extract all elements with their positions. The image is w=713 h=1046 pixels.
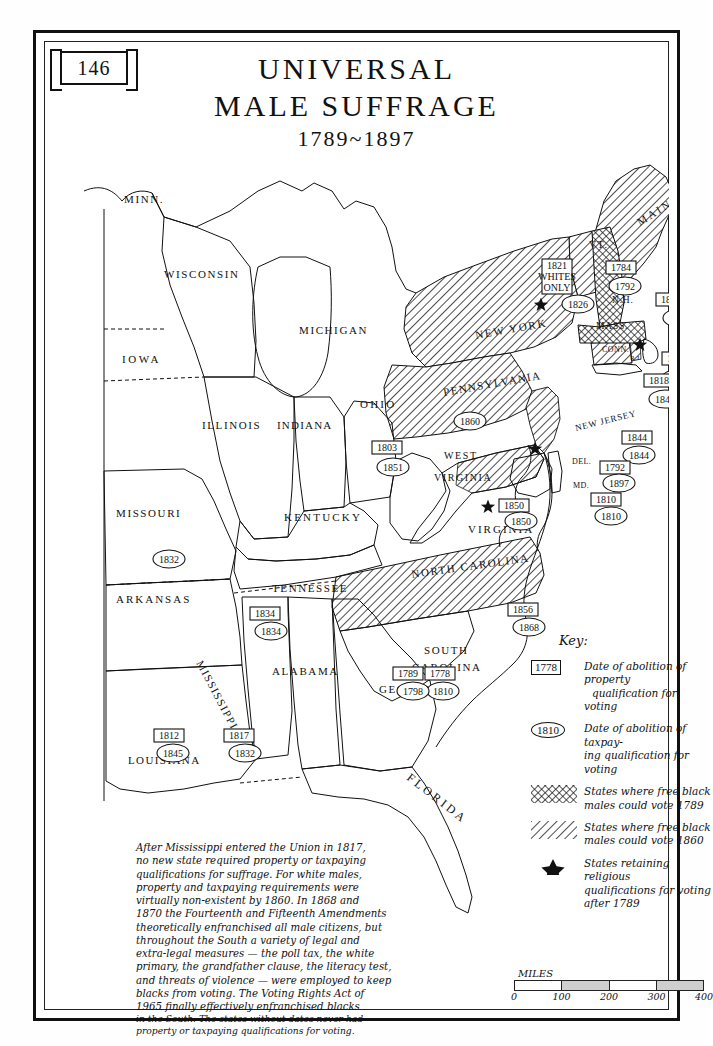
state-label-iowa: IOWA (122, 353, 161, 365)
state-label-n-h: N.H. (612, 295, 634, 305)
property-date-text: 1803 (377, 442, 397, 453)
state-label-md: MD. (573, 481, 589, 490)
key-religious-line2: qualifications for voting (584, 884, 711, 896)
state-label-del: DEL. (572, 457, 591, 466)
scale-bar-block: MILES 0100200300400 (514, 968, 704, 1003)
state-label-arkansas: ARKANSAS (116, 593, 191, 605)
property-date-text: 1792 (605, 462, 625, 473)
region-new-jersey (526, 387, 560, 453)
note-line: primary, the grandfather clause, the lit… (136, 960, 404, 973)
outline-alabama (288, 597, 340, 769)
key-text-property: Date of abolition of property qualificat… (584, 660, 711, 714)
key-item-black-vote-1860: States where free black males could vote… (531, 821, 711, 848)
state-label-illinois: ILLINOIS (202, 419, 261, 431)
key-1789-line2: males could vote 1789 (584, 799, 704, 811)
taxpaying-date-text: 1850 (511, 516, 531, 527)
key-item-religious: States retaining religious qualification… (531, 857, 711, 911)
taxpaying-date-text: 1868 (519, 622, 539, 633)
hatch-1789-icon (531, 785, 577, 803)
note-line: throughout the South a variety of legal … (136, 934, 404, 947)
taxpaying-date-text: 1845 (163, 748, 183, 759)
taxpaying-date-text: 1810 (601, 511, 621, 522)
date-label-north-carolina: 18561868 (508, 603, 545, 636)
property-date-text: 1842 (667, 353, 669, 364)
state-label-wisconsin: WISCONSIN (164, 268, 240, 280)
scale-tick: 200 (600, 991, 618, 1002)
date-label-ohio: 18031851 (372, 441, 409, 476)
property-date-text: 1810 (596, 494, 616, 505)
date-label-missouri: 1832 (153, 550, 185, 568)
key-1860-line2: males could vote 1860 (584, 834, 704, 846)
note-line: and threats of violence — were employed … (136, 974, 404, 987)
key-property-line1: Date of abolition of property (584, 660, 686, 685)
state-label-michigan: MICHIGAN (299, 324, 368, 336)
key-taxpaying-line2: ing qualification for voting (584, 749, 689, 774)
state-label-minn: MINN. (124, 193, 164, 205)
scale-tick: 0 (511, 991, 517, 1002)
taxpaying-date-text: 1851 (383, 462, 403, 473)
taxpaying-date-text: 1792 (615, 281, 635, 292)
note-line: property or taxpaying qualifications for… (136, 1025, 404, 1037)
state-label-virginia: VIRGINIA (434, 472, 492, 483)
region-new-york (404, 237, 578, 367)
property-date-text: 1821 (661, 294, 669, 305)
taxpaying-date-text: 1844 (629, 450, 649, 461)
taxpaying-date-text: 1834 (261, 626, 281, 637)
key-property-line2: qualification for voting (584, 687, 677, 712)
outline-illinois (204, 377, 294, 539)
date-label-massachusetts: 18211863 (656, 293, 669, 327)
note-line: extra-legal measures — the poll tax, the… (136, 947, 404, 960)
state-label-new-jersey: NEW JERSEY (574, 408, 637, 433)
state-label-alabama: ALABAMA (272, 665, 339, 677)
scale-segment (515, 981, 562, 990)
note-line: 1965 finally effectively enfranchised bl… (136, 1000, 404, 1013)
state-label-florida: FLORIDA (404, 770, 470, 826)
region-north-carolina (332, 537, 544, 631)
state-label-mississippi: MISSISSIPPI (194, 658, 241, 731)
note-line: in the South. The states without dates n… (136, 1013, 404, 1025)
state-label-conn: CONN. (602, 345, 629, 354)
key-1860-line1: States where free black (584, 821, 711, 833)
date-label-new-jersey: 18441844 (622, 431, 655, 464)
property-date-text: 1778 (430, 668, 450, 679)
date-label-maryland: 18101810 (591, 493, 627, 525)
scale-label: MILES (518, 968, 704, 979)
scale-tick: 300 (647, 991, 665, 1002)
key-1789-line1: States where free black (584, 785, 711, 797)
property-date-qualifier: WHITES (538, 271, 576, 282)
state-label-ohio: OHIO (360, 398, 396, 410)
key-text-black-vote-1789: States where free black males could vote… (584, 785, 711, 812)
property-date-qualifier: ONLY (544, 282, 571, 293)
key-text-black-vote-1860: States where free black males could vote… (584, 821, 711, 848)
map-frame-outer: 146 UNIVERSAL MALE SUFFRAGE 1789~1897 (33, 30, 680, 1021)
key-swatch-star (531, 857, 577, 879)
key-taxpaying-line1: Date of abolition of taxpay- (584, 722, 686, 747)
star-icon (531, 857, 577, 875)
explanatory-note: After Mississippi entered the Union in 1… (136, 841, 404, 1037)
hatch-1860-icon (531, 821, 577, 839)
key-swatch-rect: 1778 (531, 660, 577, 682)
key-text-religious: States retaining religious qualification… (584, 857, 711, 911)
outline-indiana (294, 397, 346, 511)
key-text-taxpaying: Date of abolition of taxpay- ing qualifi… (584, 722, 711, 776)
scale-tick: 100 (552, 991, 570, 1002)
taxpaying-date-text: 1810 (433, 686, 453, 697)
date-label-mississippi: 18171832 (224, 729, 261, 762)
date-label-connecticut: 18181845 (644, 374, 669, 408)
state-label-tennessee: TENNESSEE (272, 582, 348, 594)
map-key: Key: 1778 Date of abolition of property … (531, 633, 711, 920)
property-date-text: 1834 (255, 608, 275, 619)
scale-segment (562, 981, 609, 990)
state-label-mass: MASS. (596, 321, 628, 331)
religious-star-virginia (481, 500, 495, 514)
key-item-black-vote-1789: States where free black males could vote… (531, 785, 711, 812)
state-label-west: WEST (444, 450, 478, 461)
state-label-kentucky: KENTUCKY (284, 511, 362, 523)
property-date-text: 1789 (398, 668, 418, 679)
property-date-text: 1818 (649, 375, 669, 386)
note-line: qualifications for suffrage. For white m… (136, 868, 404, 881)
outline-wisconsin (162, 217, 256, 377)
date-label-louisiana: 18121845 (154, 729, 189, 762)
taxpaying-date-text: 1798 (403, 686, 423, 697)
note-line: After Mississippi entered the Union in 1… (136, 841, 404, 854)
